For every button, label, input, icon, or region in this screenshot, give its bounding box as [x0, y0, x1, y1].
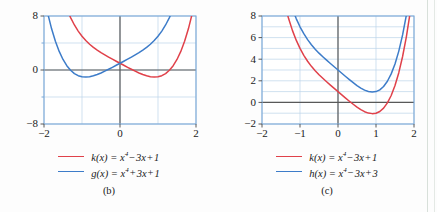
legend-swatch-blue — [276, 171, 302, 172]
svg-text:6: 6 — [251, 31, 257, 43]
legend-c: k(x) = x4−3x+1 h(x) = x4−3x+3 — [276, 150, 377, 178]
svg-text:0: 0 — [117, 127, 123, 139]
legend-item: k(x) = x4−3x+1 — [276, 150, 377, 163]
legend-label-k: k(x) = x4−3x+1 — [91, 150, 159, 163]
page-edge-line-outer — [434, 0, 435, 212]
svg-text:−2: −2 — [244, 117, 256, 129]
svg-text:2: 2 — [251, 74, 257, 86]
legend-label-g: g(x) = x4+3x+1 — [91, 166, 159, 179]
legend-swatch-red — [276, 156, 302, 157]
chart-svg-c: −202468−2−1012 — [232, 6, 422, 146]
svg-text:4: 4 — [251, 53, 257, 65]
legend-label-k: k(x) = x4−3x+1 — [309, 150, 377, 163]
legend-item: g(x) = x4+3x+1 — [58, 166, 159, 179]
legend-item: h(x) = x4−3x+3 — [276, 166, 377, 179]
panel-c: −202468−2−1012 k(x) = x4−3x+1 h(x) = x4−… — [218, 0, 436, 212]
svg-text:−1: −1 — [294, 127, 306, 139]
svg-text:0: 0 — [33, 63, 39, 75]
legend-swatch-red — [58, 156, 84, 157]
svg-text:0: 0 — [335, 127, 341, 139]
figure-container: −808−202 k(x) = x4−3x+1 g(x) = x4+3x+1 (… — [0, 0, 437, 212]
panel-caption-c: (c) — [321, 185, 333, 196]
svg-text:8: 8 — [33, 9, 39, 21]
svg-text:8: 8 — [251, 9, 257, 21]
panel-b: −808−202 k(x) = x4−3x+1 g(x) = x4+3x+1 (… — [0, 0, 218, 212]
plot-b: −808−202 — [14, 6, 204, 146]
legend-label-h: h(x) = x4−3x+3 — [309, 166, 377, 179]
legend-item: k(x) = x4−3x+1 — [58, 150, 159, 163]
legend-swatch-blue — [58, 171, 84, 172]
svg-text:2: 2 — [411, 127, 417, 139]
svg-text:−8: −8 — [26, 117, 38, 129]
svg-text:2: 2 — [193, 127, 199, 139]
svg-text:−2: −2 — [38, 127, 50, 139]
legend-b: k(x) = x4−3x+1 g(x) = x4+3x+1 — [58, 150, 159, 178]
page-edge-line — [427, 0, 428, 212]
panel-caption-b: (b) — [103, 185, 115, 196]
svg-text:0: 0 — [251, 96, 257, 108]
svg-text:−2: −2 — [256, 127, 268, 139]
chart-svg-b: −808−202 — [14, 6, 204, 146]
svg-text:1: 1 — [373, 127, 379, 139]
plot-c: −202468−2−1012 — [232, 6, 422, 146]
